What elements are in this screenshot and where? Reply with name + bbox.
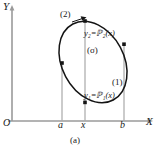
callout-label-upper-arc: (2): [60, 10, 71, 19]
figure-panel: Y X O a x b (2) (1) (σ) y₂=ℙ₂(x) y₁=ℙ₁(x…: [0, 0, 161, 152]
origin-label: O: [3, 118, 10, 128]
figure-caption: (a): [70, 136, 80, 145]
upper-curve-equation: y₂=ℙ₂(x): [84, 29, 115, 38]
x-tick-label-a: a: [58, 120, 63, 130]
x-tick-label-b: b: [120, 120, 125, 130]
x-axis-label: X: [146, 116, 153, 127]
region-label-sigma: (σ): [87, 46, 98, 55]
callout-label-lower-arc: (1): [112, 78, 123, 87]
y-axis-label: Y: [3, 1, 9, 12]
point-bottom: [83, 101, 87, 105]
point-right-b: [122, 42, 126, 46]
point-top: [83, 19, 87, 23]
lower-curve-equation: y₁=ℙ₁(x): [84, 91, 115, 100]
point-left-a: [60, 61, 64, 65]
y-axis-arrowhead: [10, 5, 15, 11]
x-tick-label-x: x: [81, 120, 85, 130]
